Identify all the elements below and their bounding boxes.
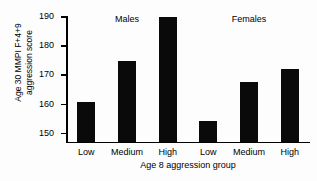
y-tick-label-180: 180: [39, 40, 54, 50]
y-tick-label-160: 160: [39, 99, 54, 109]
x-tick-label: Low: [78, 147, 95, 157]
y-tick-label-170: 170: [39, 69, 54, 79]
y-tick-160: 160: [61, 104, 66, 106]
y-tick-label-190: 190: [39, 11, 54, 21]
y-tick-180: 180: [61, 45, 66, 47]
x-tick-label: High: [280, 147, 299, 157]
plot-area: 150160170180190 MalesFemales LowMediumHi…: [66, 16, 310, 143]
bar: [240, 82, 258, 141]
bar: [118, 61, 136, 141]
y-tick-150: 150: [61, 133, 66, 135]
bar: [159, 17, 177, 141]
group-label-males: Males: [115, 14, 139, 24]
x-axis-line: [66, 142, 310, 144]
y-axis-title-line-1: Age 30 MMPI F+4+9: [13, 0, 24, 133]
y-tick-170: 170: [61, 74, 66, 76]
x-tick-label: High: [158, 147, 177, 157]
y-axis-title: Age 30 MMPI F+4+9 aggression score: [13, 0, 34, 133]
bar: [77, 102, 95, 142]
x-tick-label: Medium: [233, 147, 265, 157]
y-axis-title-line-2: aggression score: [23, 0, 34, 133]
x-axis-title: Age 8 aggression group: [66, 160, 310, 170]
group-label-females: Females: [232, 14, 267, 24]
bar: [281, 69, 299, 142]
bar-chart-figure: Age 30 MMPI F+4+9 aggression score 15016…: [0, 0, 317, 181]
x-tick-label: Low: [200, 147, 217, 157]
y-axis-line: [66, 16, 68, 143]
bar: [199, 121, 217, 142]
y-tick-label-150: 150: [39, 128, 54, 138]
y-tick-190: 190: [61, 16, 66, 18]
x-tick-label: Medium: [111, 147, 143, 157]
